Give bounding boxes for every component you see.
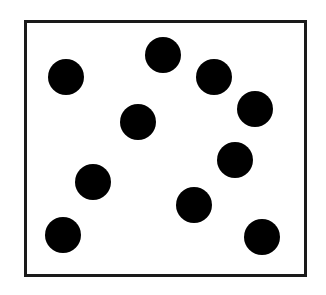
dot-6 <box>217 142 253 178</box>
dot-7 <box>75 164 111 200</box>
dot-1 <box>48 59 84 95</box>
dot-5 <box>120 104 156 140</box>
dot-4 <box>237 91 273 127</box>
dot-3 <box>196 59 232 95</box>
dot-9 <box>45 217 81 253</box>
dot-8 <box>176 187 212 223</box>
dot-2 <box>145 37 181 73</box>
dot-10 <box>244 219 280 255</box>
